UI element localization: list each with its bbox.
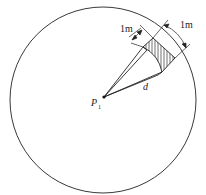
- point-label: P: [90, 97, 97, 108]
- arc-label: 1m: [180, 19, 193, 30]
- point-p1: [102, 95, 105, 98]
- distance-label: d: [143, 81, 149, 92]
- diagram-canvas: 1m 1m d P 1: [0, 0, 206, 195]
- hatched-patch: [146, 30, 173, 80]
- width-label: 1m: [120, 23, 133, 34]
- outer-circle: [10, 7, 196, 193]
- point-label-subscript: 1: [98, 104, 101, 110]
